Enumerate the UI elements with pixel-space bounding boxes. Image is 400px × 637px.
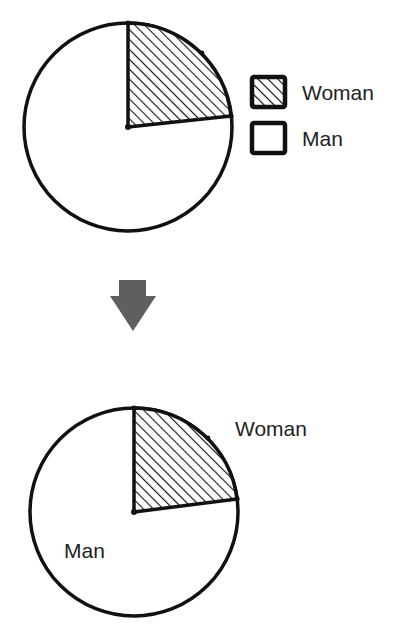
legend: Woman Man [252, 77, 374, 153]
down-arrow-icon [110, 280, 156, 331]
pie-center-dot [125, 124, 131, 130]
slice-vertex-dot [234, 496, 239, 501]
pie-chart-with-legend [24, 20, 234, 231]
slice-vertex-dot [125, 20, 130, 25]
pie-chart-comparison-diagram: Woman Man Woman Man [0, 0, 400, 637]
slice-vertex-dot [206, 436, 211, 441]
slice-label-man: Man [64, 539, 105, 562]
pie-chart-with-direct-labels: Woman Man [30, 405, 307, 616]
legend-item-man: Man [252, 123, 343, 153]
slice-vertex-dot [200, 51, 205, 56]
slice-vertex-dot [228, 113, 233, 118]
pie-slice-woman [128, 23, 231, 127]
slice-vertex-dot [131, 405, 136, 410]
legend-swatch-hatched [252, 77, 285, 107]
pie-center-dot [131, 509, 137, 515]
legend-label-woman: Woman [302, 81, 374, 104]
slice-label-woman: Woman [235, 417, 307, 440]
legend-swatch-blank [252, 123, 285, 153]
pie-slice-woman [134, 408, 237, 512]
legend-label-man: Man [302, 127, 343, 150]
legend-item-woman: Woman [252, 77, 374, 107]
